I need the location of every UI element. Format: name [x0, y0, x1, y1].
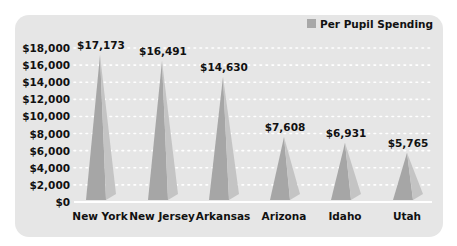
y-tick-label: $14,000: [22, 76, 70, 88]
y-tick-label: $18,000: [22, 42, 70, 54]
x-tick-label: Arkansas: [196, 210, 250, 222]
y-tick-label: $12,000: [22, 93, 70, 105]
x-tick-label: Utah: [393, 210, 421, 222]
y-tick-label: $0: [55, 196, 70, 208]
legend-swatch: [307, 19, 316, 28]
y-tick-label: $16,000: [22, 59, 70, 71]
pyramid-bar: $6,931: [326, 127, 367, 200]
pyramid-bar: $16,491: [139, 45, 187, 200]
x-tick-label: Arizona: [262, 210, 307, 222]
y-axis-ticks: $0$2,000$4,000$6,000$8,000$10,000$12,000…: [22, 42, 70, 208]
data-label: $5,765: [388, 137, 429, 149]
pyramid-chart: $0$2,000$4,000$6,000$8,000$10,000$12,000…: [0, 0, 457, 246]
x-axis-labels: New YorkNew JerseyArkansasArizonaIdahoUt…: [72, 210, 421, 222]
y-tick-label: $10,000: [22, 110, 70, 122]
data-label: $16,491: [139, 45, 187, 57]
data-label: $14,630: [200, 61, 248, 73]
data-label: $17,173: [77, 39, 125, 51]
data-label: $6,931: [326, 127, 367, 139]
x-tick-label: New Jersey: [129, 210, 195, 222]
pyramid-bar: $17,173: [77, 39, 125, 200]
pyramids: $17,173$16,491$14,630$7,608$6,931$5,765: [77, 39, 428, 200]
x-tick-label: Idaho: [328, 210, 361, 222]
pyramid-bar: $7,608: [265, 121, 306, 200]
x-tick-label: New York: [72, 210, 128, 222]
data-label: $7,608: [265, 121, 306, 133]
legend-label: Per Pupil Spending: [320, 18, 433, 30]
gridlines: [74, 48, 432, 202]
y-tick-label: $4,000: [29, 162, 70, 174]
legend: Per Pupil Spending: [307, 18, 433, 30]
y-tick-label: $8,000: [29, 128, 70, 140]
y-tick-label: $2,000: [29, 179, 70, 191]
y-tick-label: $6,000: [29, 145, 70, 157]
